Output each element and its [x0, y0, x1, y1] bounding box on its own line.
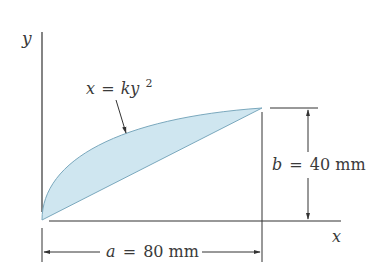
x-axis-label: x: [332, 227, 341, 246]
dim-a-label: a = 80 mm: [106, 242, 199, 261]
curve-equation: x = ky 2: [86, 77, 152, 98]
dim-b-label: b = 40 mm: [272, 155, 366, 174]
area-diagram: y x x = ky 2 b = 40 mm a = 80 mm: [0, 0, 371, 277]
y-axis-label: y: [21, 28, 32, 48]
shaded-area: [42, 108, 262, 220]
curve-leader-arrow: [116, 100, 126, 133]
